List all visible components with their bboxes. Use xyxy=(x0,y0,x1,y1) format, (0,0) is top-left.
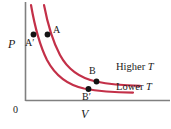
point-label-b: B xyxy=(89,66,96,76)
legend-higher-text: Higher xyxy=(116,61,148,72)
legend-label-higher-t: Higher T xyxy=(116,62,154,73)
point-a xyxy=(45,32,51,38)
y-axis-label: P xyxy=(8,38,15,50)
x-axis-label: V xyxy=(81,108,88,120)
origin-label: 0 xyxy=(13,105,18,115)
legend-lower-text: Lower xyxy=(116,81,146,92)
point-label-b-prime: B′ xyxy=(82,92,91,102)
legend-higher-symbol: T xyxy=(148,61,154,72)
legend-label-lower-t: Lower T xyxy=(116,82,152,93)
point-label-a-prime: A′ xyxy=(25,38,34,48)
pv-isotherm-figure: P V 0 A′ A B B′ Higher T Lower T xyxy=(0,0,171,129)
point-b xyxy=(94,79,100,85)
point-label-a: A xyxy=(53,25,60,35)
legend-lower-symbol: T xyxy=(146,81,152,92)
